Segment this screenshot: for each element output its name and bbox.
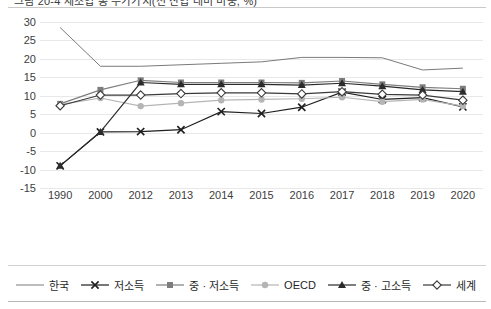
chart-figure: 그림 20-4 제조업 총 부가가치(전 산업 대비 비중, %) 302520… (0, 0, 491, 309)
legend-swatch-triangle-icon (327, 279, 357, 291)
x-tick-label: 2016 (290, 189, 314, 201)
legend-item-3[interactable]: OECD (250, 279, 316, 291)
x-tick-label: 1990 (48, 189, 72, 201)
plot-area (40, 22, 483, 188)
y-tick-label: -10 (20, 164, 36, 176)
data-point-diamond (136, 91, 144, 99)
legend-item-1[interactable]: 저소득 (80, 277, 144, 293)
data-point-circle (218, 97, 224, 103)
legend-swatch-square-icon (155, 279, 185, 291)
x-tick-label: 2019 (410, 189, 434, 201)
data-point-diamond (257, 89, 265, 97)
y-tick-label: 10 (24, 90, 36, 102)
legend-item-2[interactable]: 중 · 저소득 (155, 277, 239, 293)
legend-label: 저소득 (114, 277, 144, 293)
data-point-circle (379, 98, 385, 104)
legend-divider-bottom (8, 301, 486, 302)
legend-item-0[interactable]: 한국 (15, 277, 69, 293)
legend-label: 중 · 고소득 (361, 277, 411, 293)
chart-legend: 한국저소득중 · 저소득OECD중 · 고소득세계 (0, 272, 491, 298)
legend-item-5[interactable]: 세계 (422, 277, 476, 293)
x-tick-label: 2000 (88, 189, 112, 201)
x-tick-label: 2017 (330, 189, 354, 201)
data-point-circle (137, 103, 143, 109)
series-layer (40, 22, 483, 188)
figure-caption-text: 그림 20-4 제조업 총 부가가치(전 산업 대비 비중, %) (14, 0, 257, 7)
legend-label: 중 · 저소득 (189, 277, 239, 293)
data-point-diamond (177, 89, 185, 97)
legend-swatch-none-icon (15, 279, 45, 291)
data-point-diamond (298, 90, 306, 98)
legend-swatch-circle-icon (250, 279, 280, 291)
x-tick-label: 2013 (169, 189, 193, 201)
y-tick-label: -5 (26, 145, 36, 157)
y-tick-label: 30 (24, 16, 36, 28)
data-point-square (167, 282, 173, 288)
legend-label: 세계 (456, 277, 476, 293)
x-tick-label: 2012 (128, 189, 152, 201)
x-axis-labels: 1990200020122013201420152016201720182019… (40, 189, 483, 207)
legend-item-4[interactable]: 중 · 고소득 (327, 277, 411, 293)
x-tick-label: 2018 (370, 189, 394, 201)
legend-label: 한국 (49, 277, 69, 293)
y-axis-labels: 302520151050-5-10-15 (0, 22, 36, 188)
legend-label: OECD (284, 279, 316, 291)
figure-caption: 그림 20-4 제조업 총 부가가치(전 산업 대비 비중, %) (0, 0, 491, 7)
y-tick-label: 15 (24, 71, 36, 83)
legend-swatch-diamond-icon (422, 279, 452, 291)
series-line (60, 28, 463, 70)
data-point-diamond (217, 89, 225, 97)
legend-divider-top (8, 265, 486, 266)
y-tick-label: 20 (24, 53, 36, 65)
y-tick-label: 5 (30, 108, 36, 120)
data-point-diamond (432, 281, 440, 289)
y-tick-label: 0 (30, 127, 36, 139)
x-tick-label: 2014 (209, 189, 233, 201)
series-none (60, 28, 463, 70)
data-point-circle (262, 282, 268, 288)
y-tick-label: -15 (20, 182, 36, 194)
caption-divider (8, 7, 486, 8)
x-tick-label: 2015 (249, 189, 273, 201)
y-tick-label: 25 (24, 34, 36, 46)
data-point-circle (178, 100, 184, 106)
series-line (60, 92, 463, 166)
legend-swatch-x-icon (80, 279, 110, 291)
x-tick-label: 2020 (451, 189, 475, 201)
